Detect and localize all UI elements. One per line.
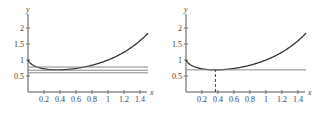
- y-axis-label: y: [183, 5, 188, 14]
- left-chart: xy0.20.40.60.811.21.40.511.52: [0, 0, 158, 114]
- y-tick-label: 0.5: [14, 72, 24, 81]
- x-tick-label: 1.2: [119, 95, 129, 104]
- x-tick-label: 1: [106, 95, 110, 104]
- x-tick-label: 1.2: [277, 95, 287, 104]
- y-tick-label: 1.5: [172, 40, 182, 49]
- right-chart-panel: xy0.20.40.60.811.21.40.511.52: [158, 0, 316, 114]
- y-tick-label: 0.5: [172, 72, 182, 81]
- x-tick-label: 0.4: [213, 95, 223, 104]
- x-tick-label: 0.2: [39, 95, 49, 104]
- function-curve: [28, 33, 148, 70]
- x-tick-label: 0.6: [71, 95, 81, 104]
- x-tick-label: 1.4: [135, 95, 145, 104]
- x-axis-label: x: [307, 88, 312, 97]
- y-tick-label: 1.5: [14, 40, 24, 49]
- y-tick-label: 1: [178, 56, 182, 65]
- x-tick-label: 0.6: [229, 95, 239, 104]
- x-tick-label: 0.4: [55, 95, 65, 104]
- x-axis-label: x: [149, 88, 154, 97]
- x-tick-label: 1.4: [293, 95, 303, 104]
- y-axis-label: y: [25, 5, 30, 14]
- function-curve: [186, 33, 306, 70]
- x-tick-label: 1: [264, 95, 268, 104]
- x-tick-label: 0.2: [197, 95, 207, 104]
- y-tick-label: 1: [20, 56, 24, 65]
- x-tick-label: 0.8: [245, 95, 255, 104]
- left-chart-panel: xy0.20.40.60.811.21.40.511.52: [0, 0, 158, 114]
- right-chart: xy0.20.40.60.811.21.40.511.52: [158, 0, 317, 114]
- x-tick-label: 0.8: [87, 95, 97, 104]
- y-tick-label: 2: [178, 24, 182, 33]
- y-tick-label: 2: [20, 24, 24, 33]
